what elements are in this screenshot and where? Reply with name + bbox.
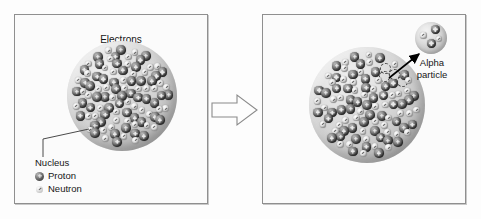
neutron-sphere [84, 70, 91, 77]
proton-sphere [346, 104, 356, 114]
proton-sphere [374, 148, 384, 158]
proton-sphere [136, 76, 146, 86]
neutron-sphere [314, 98, 321, 105]
neutron-sphere [361, 92, 368, 99]
legend-label-proton: Proton [48, 171, 76, 181]
neutron-sphere [151, 124, 158, 131]
neutron-sphere [120, 77, 127, 84]
neutron-sphere [113, 109, 120, 116]
proton-sphere [92, 92, 102, 102]
legend-item-neutron: Neutron [35, 183, 82, 195]
proton-sphere [112, 137, 122, 147]
neutron-sphere [340, 76, 347, 83]
neutron-sphere [381, 122, 388, 129]
neutron-sphere [337, 141, 344, 148]
neutron-sphere [406, 110, 413, 117]
neutron-sphere [370, 86, 377, 93]
neutron-sphere [384, 129, 391, 136]
transition-block-arrow-icon [211, 93, 259, 127]
proton-sphere [332, 61, 342, 71]
panel-before-content: Electrons Nucleus Proton Neutron [15, 15, 207, 203]
proton-sphere [115, 99, 125, 109]
proton-sphere [85, 81, 95, 91]
neutron-sphere [73, 103, 80, 110]
neutron-sphere [132, 137, 139, 144]
proton-sphere [379, 91, 389, 101]
neutron-sphere [121, 133, 128, 140]
neutron-sphere [389, 92, 396, 99]
legend-item-proton: Proton [35, 170, 82, 182]
proton-sphere [99, 74, 109, 84]
neutron-sphere [382, 102, 389, 109]
proton-sphere [337, 105, 347, 115]
neutron-sphere [337, 95, 344, 102]
panel-before-emission: Electrons Nucleus Proton Neutron [14, 14, 208, 204]
proton-sphere [118, 66, 128, 76]
proton-sphere-icon [35, 172, 44, 181]
neutron-sphere [139, 107, 146, 114]
proton-sphere [348, 123, 358, 133]
proton-sphere [90, 128, 100, 138]
proton-sphere [397, 99, 407, 109]
neutron-sphere [125, 99, 132, 106]
neutron-sphere [110, 69, 117, 76]
nucleus-label: Nucleus [35, 157, 69, 168]
proton-sphere [356, 59, 366, 69]
proton-sphere [127, 76, 137, 86]
neutron-sphere [162, 105, 169, 112]
neutron-sphere [372, 118, 379, 125]
alpha-neutron-sphere [436, 36, 443, 43]
proton-sphere [332, 84, 342, 94]
alpha-proton-sphere [427, 39, 436, 48]
neutron-sphere [151, 85, 158, 92]
proton-sphere [327, 133, 337, 143]
legend-label-neutron: Neutron [48, 184, 82, 194]
neutron-sphere [125, 54, 132, 61]
neutron-sphere [102, 135, 109, 142]
neutron-sphere [372, 103, 379, 110]
neutron-sphere [143, 85, 150, 92]
neutron-sphere [103, 84, 110, 91]
neutron-sphere [375, 77, 382, 84]
proton-sphere [76, 111, 86, 121]
proton-sphere [393, 137, 403, 147]
alpha-particle-label: Alpha particle [408, 57, 456, 80]
neutron-sphere-icon [36, 186, 43, 193]
proton-sphere [359, 117, 369, 127]
neutron-sphere [113, 117, 120, 124]
neutron-sphere [413, 107, 420, 114]
neutron-sphere [360, 150, 367, 157]
neutron-sphere [144, 122, 151, 129]
neutron-sphere [352, 87, 359, 94]
neutron-sphere [360, 128, 367, 135]
proton-sphere [381, 82, 391, 92]
proton-sphere [375, 53, 385, 63]
proton-sphere [321, 88, 331, 98]
diagram-canvas: Electrons Nucleus Proton Neutron [0, 0, 481, 219]
neutron-sphere [85, 113, 92, 120]
neutron-sphere [147, 64, 154, 71]
proton-sphere [313, 108, 323, 118]
proton-sphere [336, 132, 346, 142]
neutron-sphere [85, 92, 92, 99]
proton-sphere [121, 123, 131, 133]
proton-sphere [408, 120, 418, 130]
proton-sphere [348, 70, 358, 80]
neutron-sphere [357, 108, 364, 115]
alpha-proton-sphere [431, 25, 440, 34]
neutron-sphere [330, 96, 337, 103]
alpha-neutron-sphere [420, 32, 427, 39]
neutron-sphere [142, 69, 149, 76]
neutron-sphere [102, 65, 109, 72]
legend: Proton Neutron [35, 169, 82, 195]
neutron-sphere [404, 129, 411, 136]
neutron-sphere [341, 65, 348, 72]
neutron-sphere [320, 121, 327, 128]
neutron-sphere [395, 91, 402, 98]
neutron-sphere [131, 103, 138, 110]
neutron-sphere [342, 117, 349, 124]
proton-sphere [155, 115, 165, 125]
proton-sphere [389, 100, 399, 110]
neutron-sphere [132, 121, 139, 128]
neutron-sphere [100, 127, 107, 134]
